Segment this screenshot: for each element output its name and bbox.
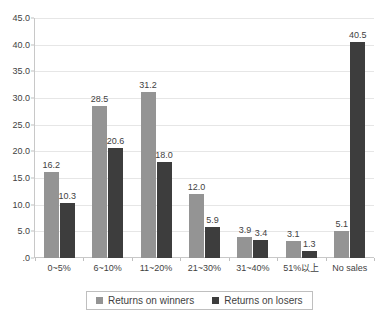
bar-losers[interactable] (108, 148, 123, 258)
bar-losers[interactable] (60, 203, 75, 258)
x-axis-tick-mark (374, 258, 375, 261)
bar-group: 5.140.5 (326, 18, 374, 258)
bar-winners[interactable] (334, 231, 349, 258)
bar-group: 12.05.9 (180, 18, 228, 258)
y-axis-tick-mark (31, 231, 34, 232)
y-axis-tick-mark (31, 44, 34, 45)
legend-item[interactable]: Returns on losers (212, 295, 302, 306)
bar-losers[interactable] (157, 162, 172, 258)
y-axis-tick-label: 10.0 (12, 200, 30, 209)
x-axis-tick-label: 11~20% (132, 263, 180, 274)
y-axis-tick-label: 20.0 (12, 147, 30, 156)
bars-layer: 16.210.328.520.631.218.012.05.93.93.43.1… (35, 18, 374, 258)
bar-group: 16.210.3 (35, 18, 83, 258)
y-axis-tick-label: 5.0 (17, 227, 30, 236)
y-axis-tick-mark (31, 151, 34, 152)
bar-value-label: 1.3 (297, 240, 322, 249)
y-axis-tick-mark (31, 178, 34, 179)
x-axis-tick-mark (326, 258, 327, 261)
chart-legend: Returns on winnersReturns on losers (86, 291, 313, 310)
y-axis-tick-mark (31, 124, 34, 125)
legend-swatch-icon (96, 297, 103, 304)
bar-losers[interactable] (350, 42, 365, 258)
bar-losers[interactable] (205, 227, 220, 258)
bar-value-label: 28.5 (87, 95, 112, 104)
y-axis-tick-mark (31, 18, 34, 19)
bar-value-label: 16.2 (39, 161, 64, 170)
y-axis-tick-label: 45.0 (12, 14, 30, 23)
x-axis-tick-label: No sales (326, 263, 374, 274)
bar-value-label: 18.0 (152, 151, 177, 160)
x-axis-tick-mark (132, 258, 133, 261)
bar-group: 3.11.3 (277, 18, 325, 258)
y-axis-tick-label: 25.0 (12, 120, 30, 129)
bar-value-label: 40.5 (345, 31, 370, 40)
bar-value-label: 31.2 (136, 81, 161, 90)
legend-swatch-icon (212, 297, 219, 304)
bar-winners[interactable] (92, 106, 107, 258)
bar-winners[interactable] (237, 237, 252, 258)
bar-winners[interactable] (44, 172, 59, 258)
y-axis-tick-mark (31, 71, 34, 72)
x-axis-tick-label: 6~10% (83, 263, 131, 274)
bar-chart: 45.040.035.030.025.020.015.010.05.0.0 16… (0, 0, 381, 323)
legend-label: Returns on losers (224, 295, 302, 306)
x-axis-tick-mark (277, 258, 278, 261)
legend-item[interactable]: Returns on winners (96, 295, 194, 306)
bar-value-label: 5.9 (200, 216, 225, 225)
bar-winners[interactable] (141, 92, 156, 258)
x-axis-tick-mark (83, 258, 84, 261)
bar-losers[interactable] (302, 251, 317, 258)
x-axis-tick-mark (35, 258, 36, 261)
y-axis-tick-mark (31, 204, 34, 205)
y-axis-tick-label: 15.0 (12, 174, 30, 183)
x-axis-tick-label: 31~40% (229, 263, 277, 274)
bar-losers[interactable] (253, 240, 268, 258)
bar-group: 3.93.4 (229, 18, 277, 258)
y-axis-tick-label: 30.0 (12, 94, 30, 103)
bar-group: 31.218.0 (132, 18, 180, 258)
y-axis-tick-label: 40.0 (12, 40, 30, 49)
legend-label: Returns on winners (108, 295, 194, 306)
y-axis-tick-label: .0 (22, 254, 30, 263)
bar-value-label: 12.0 (184, 183, 209, 192)
x-axis-tick-mark (180, 258, 181, 261)
y-axis-tick-mark (31, 258, 34, 259)
y-axis-tick-label: 35.0 (12, 67, 30, 76)
bar-value-label: 20.6 (103, 137, 128, 146)
y-axis: 45.040.035.030.025.020.015.010.05.0.0 (0, 18, 30, 258)
x-axis-tick-label: 21~30% (180, 263, 228, 274)
x-axis: 0~5%6~10%11~20%21~30%31~40%51%以上No sales (35, 263, 374, 277)
bar-value-label: 10.3 (55, 192, 80, 201)
bar-winners[interactable] (189, 194, 204, 258)
x-axis-tick-mark (229, 258, 230, 261)
bar-value-label: 3.4 (248, 229, 273, 238)
bar-group: 28.520.6 (83, 18, 131, 258)
y-axis-tick-mark (31, 98, 34, 99)
x-axis-tick-label: 51%以上 (277, 263, 325, 274)
x-axis-tick-label: 0~5% (35, 263, 83, 274)
